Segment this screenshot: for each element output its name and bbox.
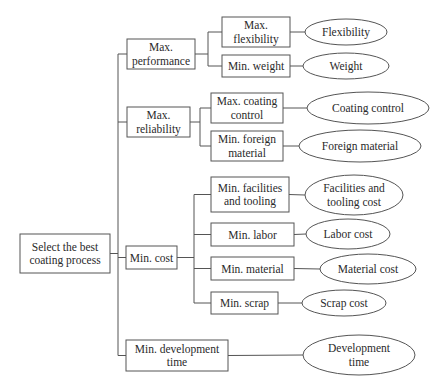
measure-ellipse-min-weight-text: Weight [330, 60, 364, 73]
objective-box-max-performance-text: performance [132, 55, 190, 68]
subobjective-box-min-weight: Min. weight [222, 55, 290, 77]
subobjective-box-min-material-text: Min. material [221, 263, 284, 275]
subobjective-box-min-labor-text: Min. labor [228, 229, 277, 241]
subobjective-box-max-coating-control-text: Max. coating [217, 95, 278, 108]
measure-ellipse-min-foreign-material-text: Foreign material [322, 140, 398, 153]
subobjective-box-min-foreign-material: Min. foreignmaterial [211, 131, 283, 161]
measure-connector-min-material [294, 269, 320, 270]
subobjective-box-min-foreign-material-text: material [228, 147, 266, 159]
measure-ellipse-min-labor: Labor cost [306, 219, 390, 249]
objective-box-min-development-time-text: Min. development [135, 343, 220, 356]
objective-box-max-performance: Max.performance [127, 39, 195, 69]
subobjective-box-min-facilities-tooling-text: Min. facilities [218, 182, 283, 194]
measure-ellipse-min-material-text: Material cost [338, 263, 399, 275]
measure-connector-min-facilities-tooling [289, 195, 305, 196]
measure-connector-min-labor [294, 234, 306, 235]
measure-ellipse-max-coating-control-text: Coating control [332, 102, 404, 115]
objective-box-max-performance-text: Max. [149, 41, 173, 53]
subobjective-box-min-weight-text: Min. weight [228, 60, 285, 73]
measure-ellipse-min-labor-text: Labor cost [324, 228, 374, 240]
measure-connector-min-development-time [228, 355, 303, 356]
subobjective-box-min-scrap: Min. scrap [211, 292, 278, 314]
measure-ellipse-min-facilities-tooling: Facilities andtooling cost [305, 175, 403, 215]
objective-box-min-development-time-text: time [167, 356, 187, 368]
objective-box-max-reliability-text: Max. [147, 109, 171, 121]
subobjective-box-max-flexibility-text: flexibility [233, 33, 279, 46]
measure-ellipse-max-coating-control: Coating control [307, 92, 429, 124]
subobjective-box-min-labor: Min. labor [211, 223, 294, 246]
objective-box-max-reliability-text: reliability [136, 123, 181, 136]
objective-box-min-cost: Min. cost [126, 246, 177, 269]
root-box-text: coating process [29, 254, 101, 267]
subobjective-box-min-scrap-text: Min. scrap [220, 297, 269, 310]
subobjective-box-max-coating-control: Max. coatingcontrol [211, 93, 283, 123]
objective-box-min-cost-text: Min. cost [130, 252, 174, 264]
root-box-text: Select the best [32, 241, 99, 253]
subobjective-box-min-facilities-tooling-text: and tooling [224, 195, 276, 208]
measure-ellipse-min-weight: Weight [303, 53, 389, 79]
measure-ellipse-max-flexibility: Flexibility [305, 19, 387, 45]
measure-ellipse-min-foreign-material: Foreign material [299, 130, 421, 162]
subobjective-box-max-flexibility-text: Max. [244, 19, 268, 31]
measure-ellipse-max-flexibility-text: Flexibility [322, 26, 370, 39]
measure-ellipse-min-development-time: Developmenttime [303, 335, 415, 375]
measure-ellipse-min-facilities-tooling-text: Facilities and [323, 182, 385, 194]
measure-ellipse-min-facilities-tooling-text: tooling cost [327, 196, 382, 209]
root-box: Select the bestcoating process [20, 234, 110, 273]
objective-tree-diagram: Select the bestcoating processMax.perfor… [0, 0, 438, 379]
objective-box-max-reliability: Max.reliability [127, 107, 190, 137]
subobjective-box-min-material: Min. material [211, 257, 294, 280]
subobjective-box-max-coating-control-text: control [231, 109, 264, 121]
measure-ellipse-min-scrap: Scrap cost [302, 290, 386, 316]
measure-ellipse-min-development-time-text: time [349, 356, 369, 368]
objective-box-min-development-time: Min. developmenttime [126, 340, 228, 371]
subobjective-box-min-facilities-tooling: Min. facilitiesand tooling [211, 177, 289, 212]
measure-ellipse-min-development-time-text: Development [328, 342, 391, 355]
measure-ellipse-min-material: Material cost [320, 254, 416, 284]
subobjective-box-max-flexibility: Max.flexibility [222, 17, 290, 47]
measure-ellipse-min-scrap-text: Scrap cost [320, 297, 368, 310]
subobjective-box-min-foreign-material-text: Min. foreign [218, 133, 276, 146]
